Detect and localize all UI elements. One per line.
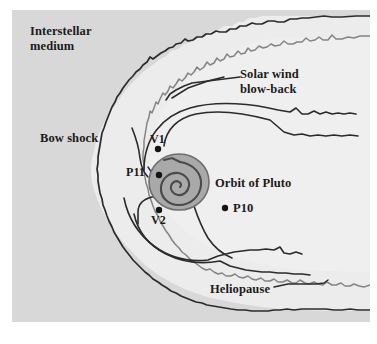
label-probe-p10: P10 — [233, 201, 253, 216]
probe-dot-p10[interactable] — [222, 205, 228, 211]
label-solar-wind-blowback: Solar wind blow-back — [240, 67, 299, 97]
probe-dot-p11[interactable] — [156, 172, 162, 178]
label-probe-v2: V2 — [151, 213, 166, 227]
label-heliopause: Heliopause — [210, 282, 270, 297]
label-orbit-of-pluto: Orbit of Pluto — [215, 176, 291, 191]
label-probe-p11: P11 — [126, 165, 145, 179]
figure-canvas: Interstellar medium Solar wind blow-back… — [0, 0, 377, 344]
label-probe-v1: V1 — [150, 132, 165, 146]
heliosphere-diagram — [12, 10, 370, 322]
sun-spiral-group[interactable] — [149, 154, 209, 210]
label-bow-shock: Bow shock — [40, 131, 98, 146]
label-interstellar-medium: Interstellar medium — [30, 24, 92, 54]
probe-dot-v1[interactable] — [155, 146, 161, 152]
diagram-frame: Interstellar medium Solar wind blow-back… — [12, 10, 370, 322]
